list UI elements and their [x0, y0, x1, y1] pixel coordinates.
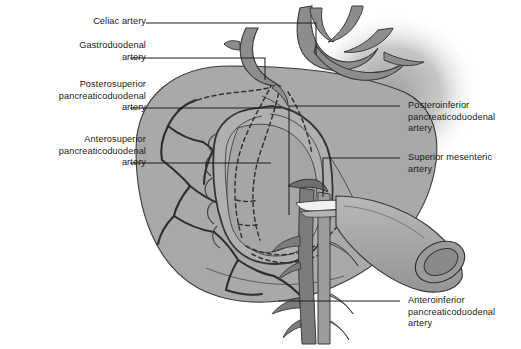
- label-line: artery: [408, 164, 492, 176]
- label-posterosuperior-pancreaticoduodenal-artery: Posterosuperiorpancreaticoduodenalartery: [16, 79, 146, 114]
- label-line: Gastroduodenal: [36, 40, 146, 52]
- figure-canvas: Celiac arteryGastroduodenalarteryPostero…: [0, 0, 521, 349]
- label-line: Celiac artery: [78, 16, 146, 28]
- label-line: Superior mesenteric: [408, 152, 492, 164]
- label-line: Posteroinferior: [408, 100, 495, 112]
- label-anteroinferior-pancreaticoduodenal-artery: Anteroinferiorpancreaticoduodenalartery: [408, 295, 495, 330]
- label-line: artery: [16, 157, 146, 169]
- label-line: Posterosuperior: [16, 79, 146, 91]
- leader-celiac-artery: [146, 23, 316, 55]
- label-line: Anterosuperior: [16, 134, 146, 146]
- label-line: artery: [408, 318, 495, 330]
- label-line: pancreaticoduodenal: [408, 307, 495, 319]
- label-anterosuperior-pancreaticoduodenal-artery: Anterosuperiorpancreaticoduodenalartery: [16, 134, 146, 169]
- label-line: pancreaticoduodenal: [16, 91, 146, 103]
- label-celiac-artery: Celiac artery: [78, 16, 146, 28]
- label-line: Anteroinferior: [408, 295, 495, 307]
- label-posteroinferior-pancreaticoduodenal-artery: Posteroinferiorpancreaticoduodenalartery: [408, 100, 495, 135]
- label-line: artery: [36, 52, 146, 64]
- label-gastroduodenal-artery: Gastroduodenalartery: [36, 40, 146, 63]
- label-line: pancreaticoduodenal: [408, 112, 495, 124]
- label-line: artery: [16, 102, 146, 114]
- label-line: artery: [408, 123, 495, 135]
- label-line: pancreaticoduodenal: [16, 146, 146, 158]
- label-superior-mesenteric-artery: Superior mesentericartery: [408, 152, 492, 175]
